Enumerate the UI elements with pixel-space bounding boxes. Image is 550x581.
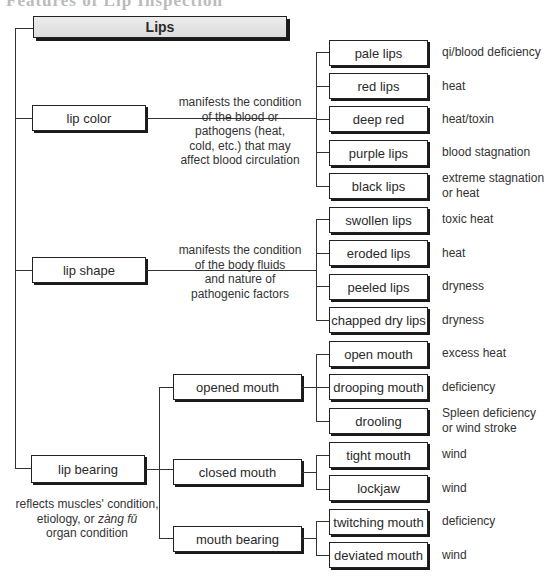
root-lips-box: Lips [33, 16, 287, 38]
desc-line: etiology, or [37, 512, 95, 526]
lip-bearing-description: reflects muscles' condition, etiology, o… [12, 497, 162, 541]
item-lockjaw: lockjaw [329, 475, 428, 501]
item-meaning: wind [442, 481, 467, 496]
item-red-lips: red lips [329, 73, 428, 99]
branch-line [316, 521, 317, 555]
connector [316, 555, 329, 556]
item-label: purple lips [349, 146, 408, 161]
branch-line [316, 219, 317, 320]
connector [316, 286, 329, 287]
connector [316, 455, 329, 456]
connector [302, 538, 316, 539]
item-meaning: blood stagnation [442, 145, 530, 160]
connector [316, 152, 329, 153]
branch-line [159, 387, 160, 539]
connector [316, 320, 329, 321]
category-label: lip bearing [58, 462, 118, 477]
item-label: twitching mouth [333, 515, 423, 530]
desc-line: pathogenic factors [170, 287, 310, 302]
connector [316, 421, 329, 422]
item-meaning: dryness [442, 279, 484, 294]
item-label: deep red [353, 112, 404, 127]
item-meaning: heat [442, 79, 465, 94]
desc-line: of the blood or [170, 110, 310, 125]
lip-shape-description: manifests the condition of the body flui… [170, 243, 310, 301]
item-meaning: heat/toxin [442, 112, 494, 127]
connector [15, 270, 32, 271]
item-meaning: wind [442, 447, 467, 462]
subgroup-label: mouth bearing [196, 532, 279, 547]
item-open-mouth: open mouth [329, 341, 428, 367]
meaning-line: Spleen deficiency [442, 406, 536, 421]
meaning-line: extreme stagnation [442, 171, 544, 186]
root-label: Lips [146, 19, 175, 35]
item-drooling: drooling [329, 408, 428, 434]
connector [316, 354, 329, 355]
connector [316, 521, 329, 522]
item-meaning: excess heat [442, 346, 506, 361]
item-tight-mouth: tight mouth [329, 442, 428, 468]
connector [15, 468, 31, 469]
desc-line: reflects muscles' condition, [12, 497, 162, 512]
desc-line: organ condition [12, 526, 162, 541]
item-swollen-lips: swollen lips [329, 207, 428, 233]
item-purple-lips: purple lips [329, 140, 428, 166]
item-meaning: deficiency [442, 380, 495, 395]
desc-term-italic: zàng fǔ [98, 512, 137, 526]
connector [159, 387, 173, 388]
page-heading-cropped: Features of Lip Inspection [6, 0, 223, 11]
item-black-lips: black lips [329, 173, 428, 199]
item-eroded-lips: eroded lips [329, 240, 428, 266]
desc-line: pathogens (heat, [170, 124, 310, 139]
item-meaning: heat [442, 246, 465, 261]
item-label: black lips [352, 179, 405, 194]
connector [316, 186, 329, 187]
subgroup-label: opened mouth [196, 380, 279, 395]
item-label: drooping mouth [333, 380, 423, 395]
item-label: swollen lips [345, 213, 411, 228]
connector [316, 387, 329, 388]
subgroup-closed-mouth: closed mouth [173, 459, 302, 485]
item-meaning: wind [442, 548, 467, 563]
desc-line: of the body fluids [170, 258, 310, 273]
item-label: open mouth [344, 347, 413, 362]
category-lip-shape: lip shape [32, 257, 146, 283]
item-peeled-lips: peeled lips [329, 274, 428, 300]
connector [15, 28, 33, 29]
item-label: chapped dry lips [331, 313, 426, 328]
subgroup-opened-mouth: opened mouth [173, 374, 302, 400]
connector [316, 253, 329, 254]
item-meaning: deficiency [442, 514, 495, 529]
meaning-line: or wind stroke [442, 421, 536, 436]
connector [316, 86, 329, 87]
item-chapped-dry-lips: chapped dry lips [329, 307, 428, 333]
desc-line: cold, etc.) that may [170, 139, 310, 154]
item-meaning: Spleen deficiency or wind stroke [442, 406, 536, 436]
trunk-line [15, 28, 16, 469]
connector [316, 119, 329, 120]
category-label: lip color [67, 111, 112, 126]
meaning-line: or heat [442, 186, 544, 201]
item-meaning: toxic heat [442, 212, 493, 227]
subgroup-label: closed mouth [199, 465, 276, 480]
item-label: pale lips [355, 46, 403, 61]
item-meaning: qi/blood deficiency [442, 45, 541, 60]
connector [15, 118, 32, 119]
branch-line [316, 455, 317, 489]
connector [316, 52, 329, 53]
connector [302, 387, 316, 388]
item-pale-lips: pale lips [329, 40, 428, 66]
item-label: peeled lips [347, 280, 409, 295]
desc-line: and nature of [170, 272, 310, 287]
item-drooping-mouth: drooping mouth [329, 374, 428, 400]
connector [316, 489, 329, 490]
desc-line: manifests the condition [170, 95, 310, 110]
item-label: lockjaw [357, 481, 400, 496]
lip-color-description: manifests the condition of the blood or … [170, 95, 310, 168]
desc-line: manifests the condition [170, 243, 310, 258]
item-label: red lips [358, 79, 400, 94]
connector [159, 538, 173, 539]
item-twitching-mouth: twitching mouth [329, 509, 428, 535]
item-label: eroded lips [347, 246, 411, 261]
item-deep-red: deep red [329, 106, 428, 132]
